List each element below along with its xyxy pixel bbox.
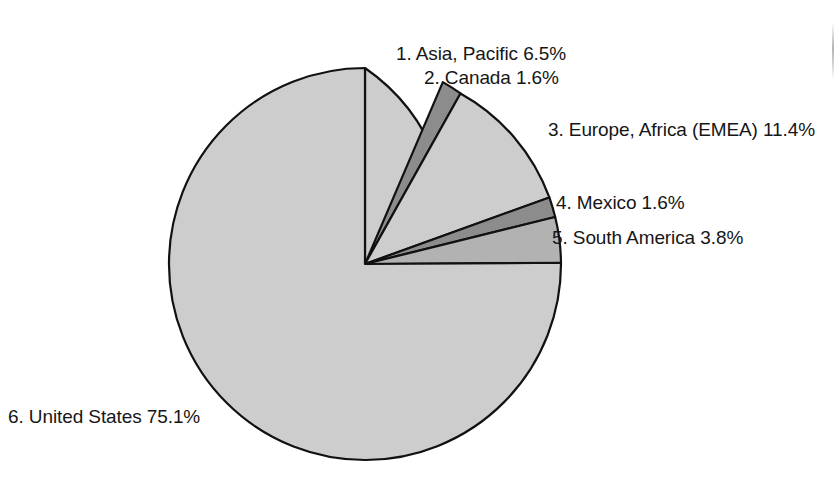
pie-label-europe-africa-emea: 3. Europe, Africa (EMEA) 11.4% xyxy=(548,118,815,141)
pie-label-mexico: 4. Mexico 1.6% xyxy=(556,191,685,214)
pie-label-south-america: 5. South America 3.8% xyxy=(552,226,743,249)
pie-label-asia-pacific: 1. Asia, Pacific 6.5% xyxy=(396,42,566,65)
page-edge-scan-artifact xyxy=(832,22,834,80)
pie-label-united-states: 6. United States 75.1% xyxy=(8,405,200,428)
pie-chart-figure: 1. Asia, Pacific 6.5% 2. Canada 1.6% 3. … xyxy=(0,0,837,478)
pie-label-canada: 2. Canada 1.6% xyxy=(424,66,559,89)
